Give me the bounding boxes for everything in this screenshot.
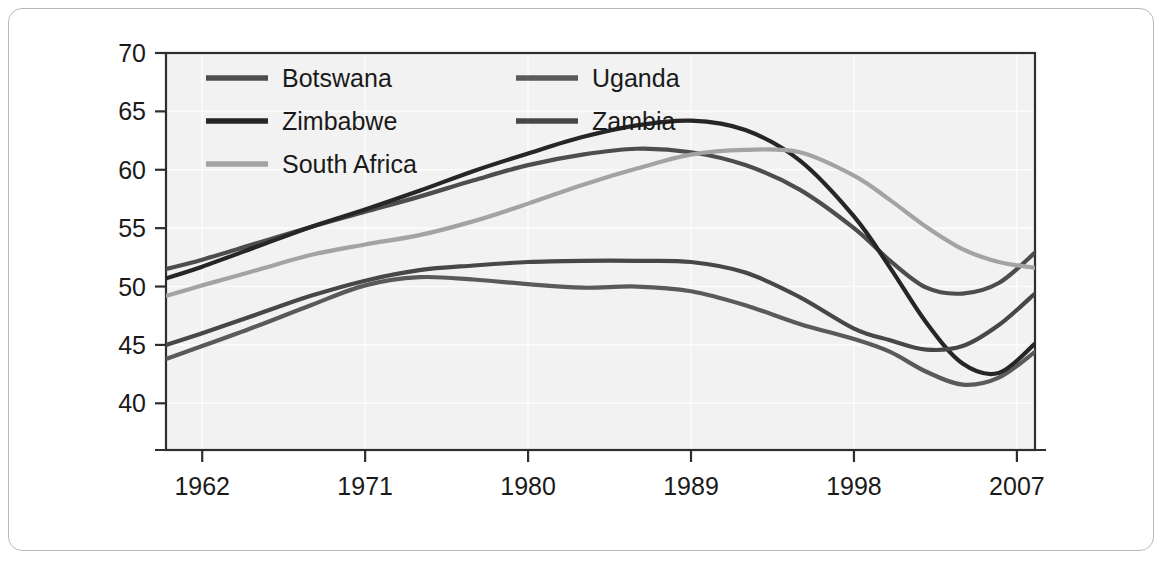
y-tick-label: 65 <box>118 97 146 125</box>
legend-label: Botswana <box>282 64 392 92</box>
figure-frame: 40455055606570 196219711980198919982007 … <box>8 8 1154 551</box>
x-tick-label: 1989 <box>663 472 719 500</box>
legend-label: Zambia <box>592 107 675 135</box>
y-tick-label: 70 <box>118 39 146 67</box>
line-chart: 40455055606570 196219711980198919982007 … <box>9 9 1155 552</box>
y-tick-label: 40 <box>118 389 146 417</box>
y-tick-label: 55 <box>118 214 146 242</box>
x-axis: 196219711980198919982007 <box>155 450 1046 500</box>
legend-label: South Africa <box>282 150 417 178</box>
x-tick-label: 2007 <box>989 472 1045 500</box>
legend-label: Uganda <box>592 64 680 92</box>
legend-label: Zimbabwe <box>282 107 397 135</box>
y-tick-label: 50 <box>118 273 146 301</box>
y-tick-label: 60 <box>118 156 146 184</box>
x-tick-label: 1962 <box>174 472 230 500</box>
y-axis: 40455055606570 <box>118 39 166 417</box>
x-tick-label: 1980 <box>500 472 556 500</box>
y-tick-label: 45 <box>118 331 146 359</box>
x-tick-label: 1971 <box>337 472 393 500</box>
x-tick-label: 1998 <box>826 472 882 500</box>
